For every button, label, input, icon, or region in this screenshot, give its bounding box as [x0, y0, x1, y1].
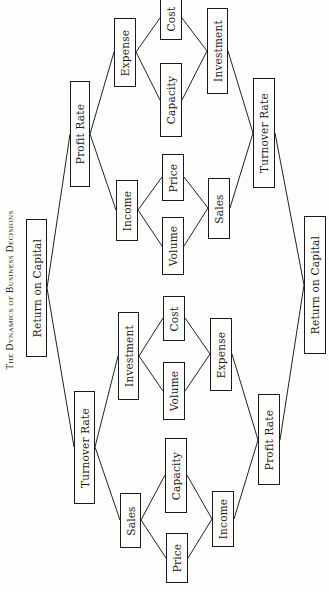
- node-return-on-capital-right: Return on Capital: [304, 216, 326, 354]
- node-expense-upper: Expense: [114, 18, 136, 87]
- node-expense-lower: Expense: [210, 318, 232, 391]
- node-label: Price: [171, 544, 183, 573]
- node-label: Expense: [215, 331, 227, 377]
- node-label: Investment: [212, 20, 224, 82]
- edge-roc-to-turnover-rate-lower: [47, 288, 74, 447]
- edge-investment-to-turnover-rate: [228, 51, 253, 133]
- node-volume-upper: Volume: [162, 217, 184, 275]
- edge-roc-to-profit-rate-upper: [47, 134, 70, 288]
- edge-volume-to-sales: [184, 208, 208, 246]
- edge-price-to-income: [188, 519, 212, 558]
- node-label: Capacity: [165, 76, 177, 124]
- edge-turnover-rate-to-roc: [275, 133, 304, 285]
- edge-cost-to-investment: [182, 18, 207, 51]
- node-label: Profit Rate: [74, 104, 86, 164]
- node-cost-upper: Cost: [160, 0, 182, 40]
- node-income-lower: Income: [212, 491, 234, 547]
- node-label: Return on Capital: [309, 236, 321, 334]
- node-label: Sales: [125, 506, 137, 535]
- node-label: Income: [121, 190, 133, 230]
- node-turnover-rate-lower: Turnover Rate: [74, 391, 95, 504]
- node-label: Expense: [119, 29, 131, 75]
- edge-investment-to-cost: [139, 318, 163, 356]
- node-sales-lower: Sales: [120, 493, 141, 548]
- node-profit-rate-upper: Profit Rate: [70, 81, 90, 187]
- node-investment-upper: Investment: [207, 8, 228, 94]
- edge-income-to-profit-rate: [234, 440, 258, 519]
- edge-profit-rate-to-income: [90, 134, 116, 210]
- node-volume-lower: Volume: [163, 362, 185, 420]
- edge-cost-to-expense: [185, 318, 210, 354]
- node-capacity-upper: Capacity: [160, 63, 182, 137]
- node-label: Turnover Rate: [258, 93, 270, 173]
- node-capacity-lower: Capacity: [165, 438, 187, 513]
- edge-turnover-rate-to-investment: [95, 356, 118, 447]
- edge-income-to-volume: [138, 210, 162, 246]
- node-label: Turnover Rate: [79, 408, 91, 488]
- diagram-title: The Dynamics of Business Decisions: [5, 210, 15, 369]
- edge-income-to-price: [138, 177, 162, 210]
- node-label: Volume: [167, 226, 179, 266]
- node-price-lower: Price: [166, 533, 188, 583]
- edge-profit-rate-to-expense: [90, 52, 114, 134]
- edge-capacity-to-income: [187, 475, 212, 519]
- edge-sales-to-price: [141, 520, 166, 558]
- node-label: Volume: [168, 371, 180, 411]
- edge-volume-to-expense: [185, 354, 210, 391]
- node-label: Price: [167, 163, 179, 192]
- edge-investment-to-volume: [139, 356, 163, 391]
- edge-sales-to-capacity: [141, 475, 165, 520]
- edge-expense-to-cost: [136, 18, 160, 52]
- edge-expense-to-profit-rate: [232, 354, 258, 440]
- node-label: Capacity: [170, 451, 182, 499]
- node-label: Cost: [165, 7, 177, 32]
- node-return-on-capital-left: Return on Capital: [26, 219, 47, 357]
- edge-turnover-rate-to-sales: [95, 447, 120, 520]
- edge-sales-to-turnover-rate: [230, 133, 253, 208]
- node-investment-lower: Investment: [118, 312, 139, 400]
- business-dynamics-diagram: The Dynamics of Business Decisions Retur…: [0, 0, 329, 592]
- node-cost-lower: Cost: [163, 296, 185, 341]
- node-price-upper: Price: [162, 154, 184, 201]
- edge-profit-rate-to-roc: [280, 285, 304, 440]
- node-label: Return on Capital: [31, 239, 43, 337]
- edge-expense-to-capacity: [136, 52, 160, 100]
- node-label: Cost: [168, 306, 180, 331]
- node-profit-rate-lower: Profit Rate: [258, 394, 280, 485]
- node-label: Sales: [213, 194, 225, 223]
- node-income-upper: Income: [116, 180, 138, 241]
- node-sales-upper: Sales: [208, 178, 230, 239]
- edge-capacity-to-investment: [182, 51, 207, 100]
- node-label: Profit Rate: [263, 409, 275, 469]
- node-label: Investment: [123, 325, 135, 387]
- edge-price-to-sales: [184, 177, 208, 208]
- node-turnover-rate-upper: Turnover Rate: [253, 78, 275, 188]
- node-label: Income: [217, 499, 229, 539]
